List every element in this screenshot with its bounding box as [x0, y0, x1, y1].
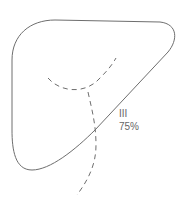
dashed-curve-vertical — [77, 92, 96, 195]
liver-outline — [12, 20, 175, 170]
dashed-curve-upper — [48, 58, 116, 90]
segment-label: III — [119, 108, 127, 120]
liver-diagram — [0, 0, 187, 207]
percentage-label: 75% — [119, 121, 139, 133]
